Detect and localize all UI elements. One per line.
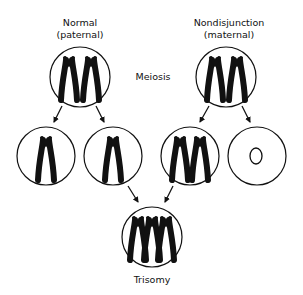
chromosome-icon: [192, 138, 208, 180]
label-trisomy: Trisomy: [122, 274, 182, 286]
chromosome-icon: [158, 218, 174, 260]
paternal-parent-cell: [50, 47, 110, 107]
chromosome-icon: [83, 58, 99, 100]
label-normal: Normal (paternal): [50, 17, 110, 41]
chromosome-icon: [172, 138, 188, 180]
maternal-gamete-disomic: [161, 127, 219, 185]
label-nondisjunction: Nondisjunction (maternal): [184, 17, 274, 41]
arrow-icon: [165, 186, 173, 202]
label-meiosis: Meiosis: [128, 71, 178, 83]
empty-nucleus-icon: [250, 148, 262, 164]
trisomic-zygote: [122, 207, 182, 267]
arrow-icon: [54, 106, 62, 122]
maternal-gamete-nullisomic: [228, 127, 286, 185]
diagram-canvas: [0, 0, 303, 295]
arrow-icon: [128, 186, 138, 202]
chromosome-icon: [38, 138, 54, 180]
chromosome-icon: [207, 58, 223, 100]
trisomy-diagram: Normal (paternal) Nondisjunction (matern…: [0, 0, 303, 295]
chromosome-icon: [105, 138, 121, 180]
arrow-icon: [200, 106, 209, 122]
arrow-icon: [242, 106, 250, 122]
chromosome-icon: [229, 58, 245, 100]
maternal-parent-cell: [196, 47, 256, 107]
chromosome-icon: [61, 58, 77, 100]
arrow-icon: [96, 106, 104, 122]
paternal-gamete-2: [84, 127, 142, 185]
paternal-gamete-1: [17, 127, 75, 185]
